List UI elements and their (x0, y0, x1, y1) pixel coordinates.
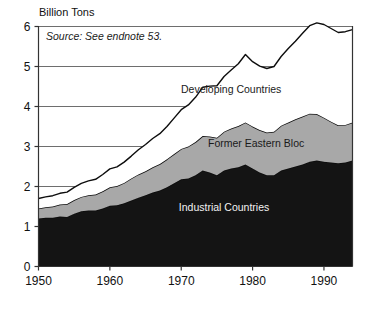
x-tick-label-1960: 1960 (97, 274, 124, 288)
y-tick-label-4: 4 (24, 100, 31, 114)
y-tick-label-1: 1 (24, 220, 31, 234)
annotation-developing-countries: Developing Countries (181, 83, 281, 95)
x-tick-label-1990: 1990 (311, 274, 338, 288)
y-tick-label-0: 0 (24, 260, 31, 274)
source-note: Source: See endnote 53. (46, 30, 162, 42)
x-tick-label-1950: 1950 (25, 274, 52, 288)
y-tick-label-5: 5 (24, 60, 31, 74)
annotation-industrial-countries: Industrial Countries (179, 201, 269, 213)
x-tick-label-1970: 1970 (168, 274, 195, 288)
carbon-emissions-area-chart: 0123456 19501960197019801990 Billion Ton… (0, 0, 368, 309)
annotation-former-eastern-bloc: Former Eastern Bloc (208, 137, 304, 149)
y-tick-label-2: 2 (24, 180, 31, 194)
x-tick-label-1980: 1980 (239, 274, 266, 288)
y-axis-title: Billion Tons (39, 6, 95, 18)
chart-canvas: 0123456 19501960197019801990 Billion Ton… (0, 0, 368, 309)
y-tick-label-3: 3 (24, 140, 31, 154)
y-tick-label-6: 6 (24, 20, 31, 34)
